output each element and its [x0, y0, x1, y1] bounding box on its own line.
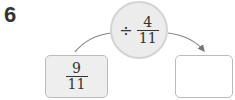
answer-box[interactable]	[175, 55, 233, 98]
input-denominator: 11	[68, 77, 86, 92]
operation-fraction: 4 11	[137, 15, 159, 46]
arc-right-arrow	[168, 33, 204, 51]
input-numerator: 9	[72, 61, 81, 76]
input-box: 9 11	[45, 55, 108, 98]
operation-circle: ÷ 4 11	[110, 1, 168, 59]
operation-numerator: 4	[143, 15, 152, 30]
input-fraction: 9 11	[66, 61, 88, 92]
arc-left	[75, 33, 111, 52]
divide-operator: ÷	[119, 21, 132, 40]
operation-denominator: 11	[139, 31, 157, 46]
